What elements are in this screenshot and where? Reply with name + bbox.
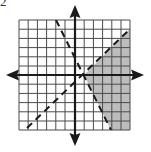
shaded-solution-region xyxy=(84,29,130,130)
inequality-graph xyxy=(0,0,151,152)
